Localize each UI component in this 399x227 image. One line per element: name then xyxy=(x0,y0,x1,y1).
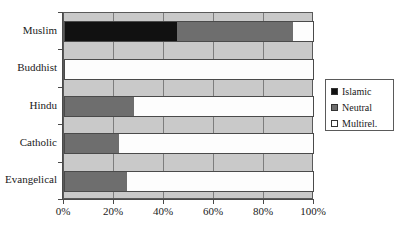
x-axis-label: 80% xyxy=(243,205,283,218)
x-axis-label: 0% xyxy=(43,205,83,218)
x-axis-tick xyxy=(213,199,214,204)
x-axis-tick xyxy=(263,199,264,204)
legend-label-islamic: Islamic xyxy=(342,86,371,97)
x-axis-tick xyxy=(313,199,314,204)
legend-item-neutral: Neutral xyxy=(331,100,393,115)
x-axis-tick xyxy=(113,199,114,204)
bar-segment-neutral xyxy=(177,21,293,42)
legend-item-multirel: Multirel. xyxy=(331,116,393,131)
bar-segment-neutral xyxy=(64,171,127,192)
bar-row xyxy=(64,96,312,117)
plot-area xyxy=(63,12,313,199)
y-axis-tick xyxy=(58,162,63,163)
y-axis-line xyxy=(62,12,63,199)
y-axis-label-catholic: Catholic xyxy=(20,136,57,148)
legend-swatch-neutral-icon xyxy=(331,104,338,111)
stacked-bar-chart: MuslimBuddhistHinduCatholicEvangelical 0… xyxy=(0,0,399,227)
x-axis-tick xyxy=(63,199,64,204)
bar-segment-multirel xyxy=(64,59,314,80)
bar-segment-multirel xyxy=(134,96,314,117)
bar-segment-multirel xyxy=(293,21,314,42)
legend-swatch-multirel-icon xyxy=(331,120,338,127)
legend-label-neutral: Neutral xyxy=(342,102,372,113)
x-axis-label: 40% xyxy=(143,205,183,218)
legend-swatch-islamic-icon xyxy=(331,88,338,95)
bar-segment-neutral xyxy=(64,96,134,117)
x-axis-label: 60% xyxy=(193,205,233,218)
y-axis-tick xyxy=(58,124,63,125)
legend-label-multirel: Multirel. xyxy=(342,118,377,129)
bar-row xyxy=(64,171,312,192)
bar-row xyxy=(64,133,312,154)
bar-series-container xyxy=(64,13,312,198)
y-axis-label-evangelical: Evangelical xyxy=(5,173,57,185)
y-axis-tick xyxy=(58,12,63,13)
bar-row xyxy=(64,21,312,42)
y-axis-label-muslim: Muslim xyxy=(23,24,57,36)
bar-segment-multirel xyxy=(127,171,314,192)
x-axis-line xyxy=(62,199,314,200)
bar-segment-islamic xyxy=(64,21,177,42)
x-axis-tick xyxy=(163,199,164,204)
y-axis-tick xyxy=(58,87,63,88)
bar-segment-multirel xyxy=(119,133,314,154)
bar-row xyxy=(64,59,312,80)
bar-segment-neutral xyxy=(64,133,119,154)
legend-item-islamic: Islamic xyxy=(331,84,393,99)
y-axis-label-hindu: Hindu xyxy=(30,99,58,111)
x-axis-label: 20% xyxy=(93,205,133,218)
legend: Islamic Neutral Multirel. xyxy=(325,79,394,131)
x-axis-label: 100% xyxy=(293,205,333,218)
y-axis-tick xyxy=(58,49,63,50)
y-axis-label-buddhist: Buddhist xyxy=(17,61,57,73)
